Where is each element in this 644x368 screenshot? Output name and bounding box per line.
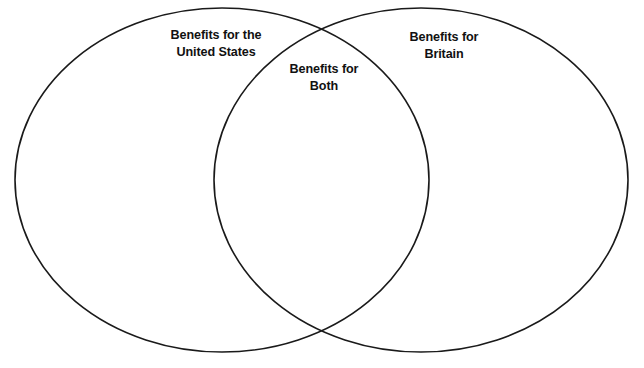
venn-label-right: Benefits for Britain <box>388 29 500 62</box>
venn-diagram-canvas: Benefits for the United States Benefits … <box>0 0 644 368</box>
venn-label-intersection: Benefits for Both <box>268 61 380 94</box>
venn-label-left: Benefits for the United States <box>125 27 307 60</box>
venn-diagram-shapes <box>0 0 644 368</box>
